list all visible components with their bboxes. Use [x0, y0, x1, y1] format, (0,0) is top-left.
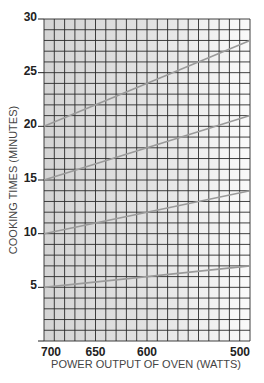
- x-tick-label: 700: [41, 345, 61, 359]
- y-tick-label: 15: [24, 171, 38, 185]
- x-axis-ticks: 700650600500: [41, 345, 250, 359]
- x-axis-label: POWER OUTPUT OF OVEN (WATTS): [51, 358, 241, 370]
- x-tick-label: 600: [137, 345, 157, 359]
- y-tick-label: 20: [24, 117, 38, 131]
- x-tick-label: 650: [85, 345, 105, 359]
- y-tick-label: 25: [24, 64, 38, 78]
- y-tick-label: 30: [24, 10, 38, 24]
- grid: [44, 19, 250, 341]
- y-axis-label: COOKING TIMES (MINUTES): [7, 106, 19, 254]
- y-axis-ticks: 51015202530: [24, 10, 44, 341]
- x-tick-label: 500: [230, 345, 250, 359]
- cooking-time-chart: 51015202530 700650600500 POWER OUTPUT OF…: [0, 0, 264, 383]
- y-tick-label: 10: [24, 225, 38, 239]
- y-tick-label: 5: [30, 278, 37, 292]
